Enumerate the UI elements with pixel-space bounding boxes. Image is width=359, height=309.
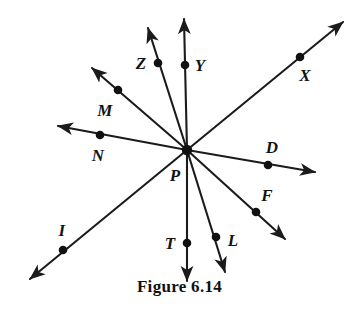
ray-diagram-svg xyxy=(0,0,359,309)
point-dot-d xyxy=(264,161,273,170)
point-label-f: F xyxy=(261,187,273,204)
point-label-z: Z xyxy=(136,55,147,72)
point-dot-i xyxy=(59,246,68,255)
point-dot-z xyxy=(154,59,163,68)
point-dot-n xyxy=(96,131,105,140)
point-dot-t xyxy=(183,239,192,248)
point-label-x: X xyxy=(299,67,311,84)
point-label-y: Y xyxy=(195,57,206,74)
ray-PX xyxy=(187,22,343,150)
point-label-t: T xyxy=(165,235,176,252)
point-label-d: D xyxy=(266,139,278,156)
point-dot-l xyxy=(212,233,221,242)
point-dot-m xyxy=(114,86,123,95)
point-dot-x xyxy=(296,53,305,62)
figure-caption: Figure 6.14 xyxy=(0,277,359,297)
ray-PY xyxy=(184,19,187,150)
point-label-i: I xyxy=(59,222,66,239)
point-dot-f xyxy=(252,208,261,217)
ray-PI xyxy=(30,150,187,279)
point-label-l: L xyxy=(228,232,239,249)
ray-PZ xyxy=(148,28,187,150)
figure-container: ZYXMNDFLTIP Figure 6.14 xyxy=(0,0,359,309)
vertex-dot-p xyxy=(182,145,192,155)
point-label-m: M xyxy=(97,102,112,119)
point-label-n: N xyxy=(92,147,104,164)
ray-PN xyxy=(58,126,187,150)
point-dot-y xyxy=(181,61,190,70)
point-label-p: P xyxy=(170,167,181,184)
